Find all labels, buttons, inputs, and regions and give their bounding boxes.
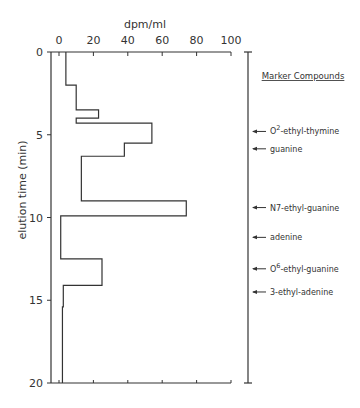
marker-item: guanine (252, 145, 302, 154)
data-trace (61, 52, 187, 383)
marker-label: 3-ethyl-adenine (270, 288, 333, 297)
x-tick-label: 20 (86, 34, 100, 47)
y-tick-label: 20 (29, 377, 43, 390)
y-axis: 05101520 (29, 46, 51, 390)
marker-item: O2-ethyl-thymine (252, 124, 339, 136)
arrow-head-icon (252, 290, 257, 294)
marker-item: 3-ethyl-adenine (252, 288, 333, 297)
marker-title: Marker Compounds (262, 71, 345, 81)
marker-label: O2-ethyl-thymine (270, 124, 339, 136)
marker-label: N7-ethyl-guanine (270, 204, 339, 213)
y-axis-label: elution time (min) (16, 140, 29, 239)
marker-list: O2-ethyl-thymineguanineN7-ethyl-guaninea… (252, 124, 339, 297)
marker-label: guanine (270, 145, 302, 154)
y-tick-label: 10 (29, 212, 43, 225)
marker-item: adenine (252, 233, 302, 242)
arrow-head-icon (252, 129, 257, 133)
y-tick-label: 5 (36, 129, 43, 142)
y-tick-label: 0 (36, 46, 43, 59)
x-tick-label: 80 (190, 34, 204, 47)
x-tick-label: 60 (155, 34, 169, 47)
marker-label: O6-ethyl-guanine (270, 262, 339, 274)
y-tick-label: 15 (29, 294, 43, 307)
arrow-head-icon (252, 206, 257, 210)
marker-item: O6-ethyl-guanine (252, 262, 339, 274)
x-axis-label: dpm/ml (124, 18, 166, 31)
arrow-head-icon (252, 267, 257, 271)
x-tick-label: 40 (121, 34, 135, 47)
x-axis: 020406080100 (51, 34, 242, 383)
arrow-head-icon (252, 147, 257, 151)
x-tick-label: 100 (221, 34, 242, 47)
marker-item: N7-ethyl-guanine (252, 204, 339, 213)
arrow-head-icon (252, 235, 257, 239)
marker-label: adenine (270, 233, 302, 242)
elution-chart: dpm/ml 020406080100 05101520 elution tim… (0, 0, 360, 408)
marker-axis (244, 52, 252, 383)
x-tick-label: 0 (56, 34, 63, 47)
